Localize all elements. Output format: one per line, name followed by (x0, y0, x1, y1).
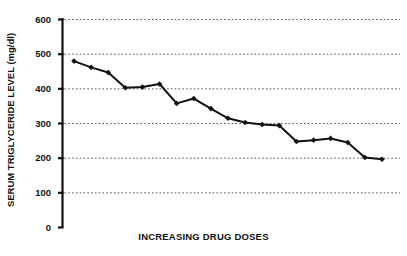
series-markers (71, 58, 385, 162)
data-point-marker (259, 122, 265, 128)
series-line (74, 61, 382, 159)
plot-area (0, 0, 407, 256)
data-point-marker (88, 65, 94, 71)
data-point-marker (311, 137, 317, 143)
data-point-marker (71, 58, 77, 64)
y-axis (58, 18, 64, 228)
gridlines (65, 20, 401, 193)
x-axis-title: INCREASING DRUG DOSES (0, 231, 407, 242)
data-point-marker (379, 156, 385, 162)
data-point-marker (328, 136, 334, 142)
chart-figure: SERUM TRIGLYCERIDE LEVEL (mg/dl) 6005004… (0, 0, 407, 256)
data-series (71, 58, 385, 162)
data-point-marker (242, 120, 248, 126)
